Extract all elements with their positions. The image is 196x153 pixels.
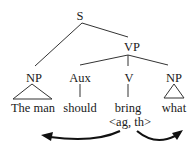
argument-structure: <ag, th>: [109, 115, 151, 129]
node-vp: VP: [124, 40, 140, 54]
node-np-subject: NP: [26, 71, 42, 85]
word-object: what: [162, 101, 187, 115]
arrow-to-object: [137, 131, 175, 140]
word-verb: bring: [115, 101, 142, 115]
edge-vp-np: [128, 55, 168, 65]
node-np-object: NP: [166, 71, 182, 85]
node-v: V: [124, 71, 133, 85]
arrow-to-subject: [50, 131, 120, 139]
node-aux: Aux: [69, 71, 91, 85]
word-subject: The man: [11, 101, 56, 115]
arrow-head-right-icon: [172, 130, 183, 140]
triangle-np-subject: [13, 84, 52, 99]
edge-vp-aux: [80, 55, 128, 65]
edge-s-vp: [82, 23, 128, 37]
syntax-tree-diagram: S VP NP Aux V NP The man should bring wh…: [0, 0, 196, 153]
arrow-head-left-icon: [41, 132, 53, 141]
node-s: S: [77, 9, 84, 23]
triangle-np-object: [164, 84, 184, 98]
edge-s-np: [35, 23, 82, 66]
word-aux: should: [63, 101, 97, 115]
